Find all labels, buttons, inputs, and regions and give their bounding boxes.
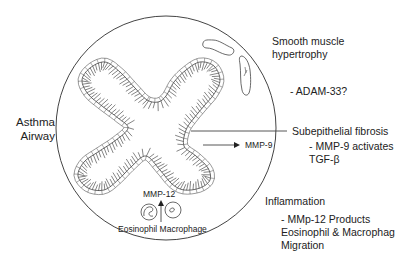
inflammation-detail: - MMp-12 Products Eosinophil & Macrophag…: [281, 213, 395, 252]
smooth-muscle-line-1: Smooth muscle: [272, 35, 344, 48]
fibrosis-detail-line-1: - MMP-9 activates: [309, 140, 394, 153]
smooth-muscle-cell-icon: [239, 56, 250, 95]
mmp12-label: MMP-12: [143, 189, 175, 199]
cells-label: Eosinophil Macrophage: [118, 224, 207, 234]
smooth-muscle-line-2: hypertrophy: [272, 48, 344, 61]
fibrosis-detail-line-2: TGF-β: [309, 153, 394, 166]
arrow-right-icon: [234, 142, 240, 148]
inflammation-detail-line-1: - MMp-12 Products: [281, 213, 395, 226]
title-line-2: Airway: [9, 129, 55, 143]
inflammation-annotation: Inflammation: [265, 195, 325, 208]
eosinophil-icon: [141, 204, 157, 220]
inflammation-detail-line-3: Migration: [281, 239, 395, 252]
fibrosis-detail: - MMP-9 activates TGF-β: [309, 140, 394, 166]
epithelium-lumen: [74, 58, 224, 195]
fibrosis-annotation: Subepithelial fibrosis: [292, 125, 388, 138]
macrophage-icon: [165, 202, 181, 218]
title-line-1: Asthma: [9, 115, 55, 129]
adam33-annotation: - ADAM-33?: [290, 85, 347, 98]
smooth-muscle-annotation: Smooth muscle hypertrophy: [272, 35, 344, 61]
arrow-up-icon: [158, 200, 164, 206]
smooth-muscle-cell-icon: [203, 40, 234, 55]
inflammation-detail-line-2: Eosinophil & Macrophag: [281, 226, 395, 239]
airway-title: Asthma Airway: [9, 115, 55, 143]
mmp9-label: MMP-9: [245, 140, 272, 150]
